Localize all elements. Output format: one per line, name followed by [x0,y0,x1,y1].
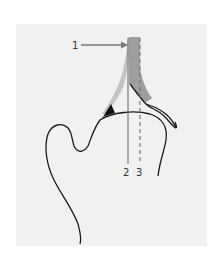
arrow-1-head [121,42,128,49]
light-band-shape [102,38,130,114]
femoral-head-left [46,120,100,244]
femoral-outline [100,112,166,176]
hip-joint-diagram: 1 2 3 [0,0,215,272]
label-2: 2 [123,167,129,178]
label-1: 1 [72,40,78,51]
label-3: 3 [136,167,142,178]
